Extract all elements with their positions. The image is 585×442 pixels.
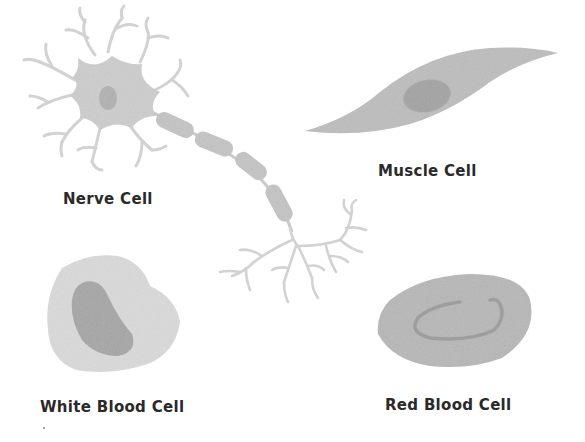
myelin-sheath-segments bbox=[153, 109, 295, 224]
nerve-cell-label: Nerve Cell bbox=[63, 190, 153, 208]
nerve-nucleus bbox=[99, 86, 117, 110]
white-blood-cell-label: White Blood Cell bbox=[40, 398, 184, 416]
stray-dot bbox=[43, 427, 45, 429]
cell-diagram bbox=[0, 0, 585, 442]
muscle-cell-label: Muscle Cell bbox=[378, 162, 477, 180]
axon-terminals bbox=[220, 200, 366, 302]
white-blood-cell bbox=[47, 255, 180, 372]
red-blood-cell-label: Red Blood Cell bbox=[385, 396, 512, 414]
nerve-cell bbox=[24, 6, 366, 302]
rbc-body bbox=[378, 274, 532, 367]
red-blood-cell bbox=[378, 274, 532, 367]
muscle-cell bbox=[305, 48, 558, 134]
